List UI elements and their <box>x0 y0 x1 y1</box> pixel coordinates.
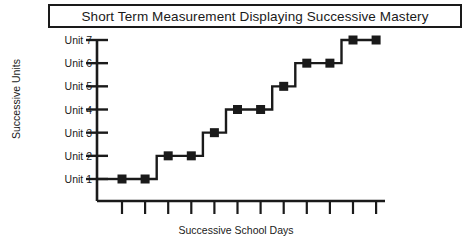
data-point-day-3 <box>164 151 173 160</box>
data-point-day-2 <box>141 175 150 184</box>
data-point-day-1 <box>118 175 127 184</box>
data-point-day-6 <box>233 105 242 114</box>
x-axis-ticks <box>122 201 376 214</box>
chart-title-box: Short Term Measurement Displaying Succes… <box>48 4 462 28</box>
data-point-day-11 <box>349 36 358 45</box>
x-axis-title: Successive School Days <box>0 224 472 236</box>
chart-canvas <box>0 28 472 218</box>
plot-area <box>0 28 472 218</box>
data-point-day-10 <box>325 59 334 68</box>
page-title: Short Term Measurement Displaying Succes… <box>81 9 428 24</box>
data-point-day-8 <box>279 82 288 91</box>
data-point-day-12 <box>372 36 381 45</box>
data-point-day-7 <box>256 105 265 114</box>
data-point-day-4 <box>187 151 196 160</box>
data-point-day-9 <box>302 59 311 68</box>
data-point-day-5 <box>210 128 219 137</box>
chart-page: Short Term Measurement Displaying Succes… <box>0 0 472 251</box>
